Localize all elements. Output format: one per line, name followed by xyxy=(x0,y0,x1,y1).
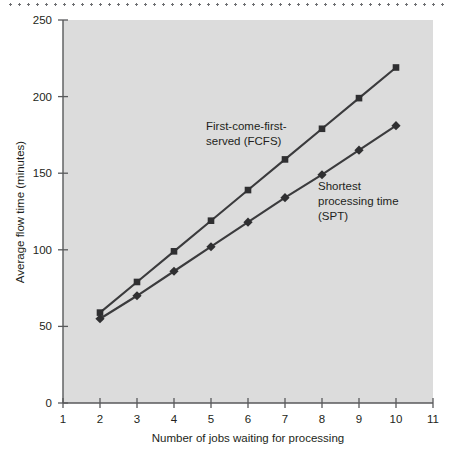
x-tick-label: 2 xyxy=(97,413,103,425)
x-axis-tick-labels: 1234567891011 xyxy=(60,413,439,425)
x-tick-label: 5 xyxy=(208,413,214,425)
x-axis-title: Number of jobs waiting for processing xyxy=(152,432,344,444)
annotation-line: (SPT) xyxy=(318,210,348,222)
data-point-marker xyxy=(171,248,178,255)
y-tick-label: 200 xyxy=(33,91,52,103)
annotation-line: First-come-first- xyxy=(206,120,287,132)
x-tick-label: 4 xyxy=(171,413,178,425)
y-axis-tick-labels: 050100150200250 xyxy=(33,14,52,409)
y-tick-label: 250 xyxy=(33,14,52,26)
x-tick-label: 6 xyxy=(245,413,251,425)
y-tick-label: 100 xyxy=(33,244,52,256)
data-point-marker xyxy=(282,156,289,163)
x-tick-label: 1 xyxy=(60,413,66,425)
data-point-marker xyxy=(134,279,141,286)
annotation-line: served (FCFS) xyxy=(206,135,282,147)
annotation-line: Shortest xyxy=(318,180,362,192)
x-tick-label: 11 xyxy=(427,413,439,425)
data-point-marker xyxy=(245,187,252,194)
line-chart: 050100150200250 1234567891011 Average fl… xyxy=(0,0,454,455)
x-tick-label: 10 xyxy=(390,413,403,425)
data-point-marker xyxy=(208,217,215,224)
chart-figure: 050100150200250 1234567891011 Average fl… xyxy=(0,0,454,455)
data-point-marker xyxy=(319,125,326,132)
y-axis-title: Average flow time (minutes) xyxy=(14,141,26,283)
y-tick-label: 0 xyxy=(46,397,52,409)
annotation-line: processing time xyxy=(318,195,399,207)
x-tick-label: 9 xyxy=(356,413,362,425)
x-tick-label: 3 xyxy=(134,413,140,425)
y-tick-label: 50 xyxy=(39,320,52,332)
x-tick-label: 8 xyxy=(319,413,325,425)
data-point-marker xyxy=(356,95,363,102)
data-point-marker xyxy=(393,64,400,71)
plot-background xyxy=(63,20,433,403)
x-tick-label: 7 xyxy=(282,413,288,425)
y-tick-label: 150 xyxy=(33,167,52,179)
